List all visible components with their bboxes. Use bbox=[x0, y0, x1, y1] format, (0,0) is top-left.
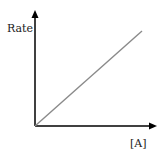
x-axis-arrow-icon bbox=[149, 123, 157, 130]
y-axis-label: Rate bbox=[7, 22, 33, 35]
x-axis-label: [A] bbox=[130, 137, 147, 150]
rate-vs-concentration-chart: Rate [A] bbox=[0, 0, 167, 156]
y-axis-arrow-icon bbox=[32, 10, 39, 18]
data-line bbox=[35, 31, 142, 126]
